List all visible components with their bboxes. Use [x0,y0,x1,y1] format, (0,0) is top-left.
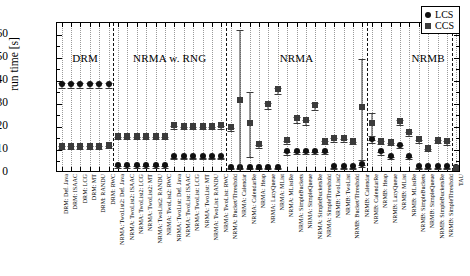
x-axis-label: NRMB: SimpleQueue [429,174,435,228]
data-point-ccs [218,122,224,128]
data-point-lcs [181,153,187,159]
data-point-ccs [275,86,281,92]
data-point-ccs [312,102,318,108]
grid-line-vertical [409,23,410,171]
data-point-ccs [435,137,441,143]
y-axis-tick-label: 60 [0,28,8,40]
grid-line-vertical [184,23,185,171]
x-axis-tick [99,23,100,27]
error-bar-cap [246,92,253,93]
y-axis-minor-tick [456,92,459,93]
x-axis-tick [409,167,410,171]
x-axis-tick [109,23,110,27]
x-axis-tick [297,167,298,171]
error-bar-cap [293,154,300,155]
x-axis-label: NRMA: SimpleQueue [307,174,313,229]
legend-label-lcs: LCS [435,9,453,20]
grid-line-vertical [391,23,392,171]
data-point-lcs [143,162,149,168]
grid-line-vertical [165,23,166,171]
data-point-lcs [359,161,365,167]
error-bar-cap [359,160,366,161]
y-axis-tick-label: 10 [0,143,8,155]
data-point-ccs [425,145,431,151]
data-point-lcs [341,163,347,169]
data-point-ccs [153,133,159,139]
data-point-lcs [59,81,65,87]
y-axis-minor-tick [57,115,60,116]
group-label: NRMA w. RNG [133,52,206,64]
x-axis-label: NRMB: TwoList [345,174,351,215]
x-axis-tick [80,23,81,27]
error-bar-cap [349,144,356,145]
x-axis-label: NRMB: LazyQueue [392,174,398,223]
data-point-ccs [303,117,309,123]
x-axis-tick [80,167,81,171]
group-separator [452,23,453,171]
data-point-lcs [134,162,140,168]
x-axis-label: NRMA: SimpleBucketsRe [317,174,323,239]
data-point-ccs [228,124,234,130]
x-axis-tick [362,23,363,27]
error-bar-cap [302,154,309,155]
data-point-lcs [416,163,422,169]
error-bar-cap [293,123,300,124]
y-axis-tick [57,150,62,151]
x-axis-label: NRMA: TwoList2: RANDU [157,174,163,244]
data-point-ccs [265,101,271,107]
error-bar-cap [58,88,65,89]
x-axis-tick [353,23,354,27]
data-point-lcs [87,81,93,87]
y-axis-minor-tick [57,92,60,93]
grid-line-vertical [344,23,345,171]
x-axis-tick [174,167,175,171]
error-bar-cap [387,159,394,160]
error-bar-cap [199,129,206,130]
grid-line-vertical [278,23,279,171]
data-point-lcs [331,163,337,169]
y-axis-minor-tick [57,138,60,139]
x-axis-label: DRM: LCG [82,174,88,203]
error-bar-cap [312,154,319,155]
data-point-ccs [331,135,337,141]
error-bar-cap [96,149,103,150]
x-axis-tick [250,23,251,27]
y-axis-tick [57,104,62,105]
y-axis-tick [57,58,62,59]
x-axis-label: NRMB: Calendar [364,174,370,217]
group-separator [113,23,114,171]
error-bar-cap [368,143,375,144]
data-point-ccs [124,133,130,139]
error-bar-cap [68,88,75,89]
error-bar-cap [237,30,244,31]
data-point-lcs [162,162,168,168]
x-axis-tick [99,167,100,171]
y-axis-minor-tick [57,161,60,162]
data-point-lcs [444,163,450,169]
data-point-lcs [96,81,102,87]
grid-line-vertical [372,23,373,171]
y-axis-tick [454,35,459,36]
x-axis-label: NRMB: Bucket/Threshold [354,174,360,239]
error-bar-cap [256,148,263,149]
x-axis-tick [127,23,128,27]
x-axis-tick [325,23,326,27]
x-axis-label: NRMA: Heap [260,174,266,208]
x-axis-label: DRM: Def. Java [63,174,69,214]
data-point-ccs [378,138,384,144]
x-axis-tick [400,23,401,27]
data-point-ccs [59,143,65,149]
x-axis-tick [287,167,288,171]
data-point-lcs [209,153,215,159]
x-axis-tick [174,23,175,27]
error-bar-cap [171,129,178,130]
x-axis-tick [193,167,194,171]
grid-line-vertical [118,23,119,171]
error-bar-cap [218,129,225,130]
x-axis-tick [306,23,307,27]
error-bar-cap [96,88,103,89]
x-axis-tick [381,23,382,27]
data-point-lcs [322,148,328,154]
data-point-ccs [162,133,168,139]
x-axis-label: NRMA: TwoList2: MT [147,174,153,231]
